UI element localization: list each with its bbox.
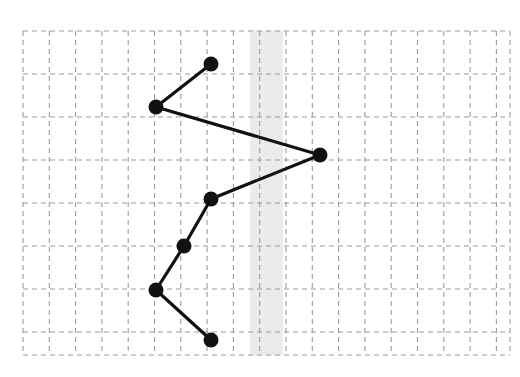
data-point-marker[interactable] xyxy=(149,283,164,298)
data-point-marker[interactable] xyxy=(204,333,219,348)
highlight-band-layer xyxy=(250,31,283,356)
dot-plot-chart: 12345678910111213141516171819 xyxy=(0,0,520,377)
data-point-marker[interactable] xyxy=(177,239,192,254)
plot-area xyxy=(0,0,520,377)
data-point-marker[interactable] xyxy=(204,192,219,207)
data-point-marker[interactable] xyxy=(204,57,219,72)
data-point-marker[interactable] xyxy=(313,148,328,163)
data-point-marker[interactable] xyxy=(149,100,164,115)
highlight-band xyxy=(250,31,283,356)
